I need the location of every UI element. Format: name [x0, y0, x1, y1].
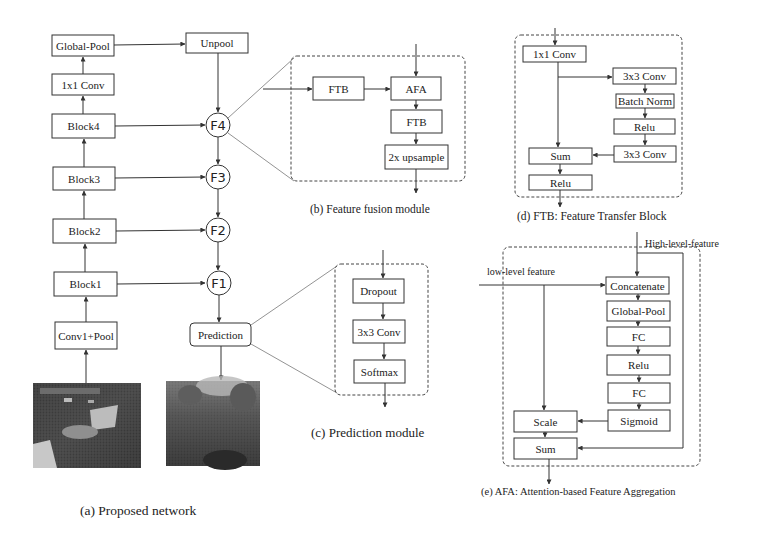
prediction-label: Prediction — [198, 329, 244, 341]
afa-sigmoid-box: Sigmoid — [608, 410, 670, 431]
ftb-conv3x3-a-box: 3x3 Conv — [613, 68, 676, 84]
afa-sum-box: Sum — [514, 438, 577, 459]
zoom-line-f4-top — [228, 58, 294, 118]
proposed-network: Global-Pool Unpool 1x1 Conv Block4 Block… — [33, 33, 260, 518]
global-pool-label: Global-Pool — [56, 40, 110, 52]
arrow-block2-to-f2 — [116, 230, 205, 231]
block1-label: Block1 — [70, 278, 102, 290]
f1-label: F1 — [211, 276, 227, 291]
fusion-upsample-label: 2x upsample — [389, 151, 445, 163]
attention-feature-aggregation: High-level-feature low-level feature Con… — [479, 232, 719, 498]
arrow-block1-to-f1 — [117, 283, 205, 284]
ftb-sum-box: Sum — [529, 148, 592, 164]
ftb-batch-norm-label: Batch Norm — [618, 95, 673, 107]
output-depth-map — [166, 376, 260, 470]
ftb-relu-a-box: Relu — [614, 119, 675, 134]
afa-relu-label: Relu — [628, 359, 649, 371]
afa-scale-label: Scale — [534, 416, 558, 428]
fusion-afa-box: AFA — [391, 77, 441, 100]
pred-conv3x3-box: 3x3 Conv — [353, 320, 405, 343]
zoom-line-f4-bottom — [228, 133, 294, 181]
conv1-pool-box: Conv1+Pool — [55, 322, 117, 349]
ftb-relu-b-label: Relu — [550, 177, 571, 189]
ftb-conv3x3-b-label: 3x3 Conv — [623, 148, 667, 160]
dropout-label: Dropout — [360, 285, 397, 297]
afa-relu-box: Relu — [607, 355, 670, 375]
fusion-node-f2: F2 — [206, 218, 230, 242]
afa-global-pool-label: Global-Pool — [612, 305, 666, 317]
input-image — [33, 383, 141, 468]
conv1x1-box: 1x1 Conv — [52, 74, 114, 95]
fusion-ftb-input-box: FTB — [313, 77, 364, 100]
afa-fc-b-label: FC — [632, 387, 645, 399]
ftb-conv1x1-box: 1x1 Conv — [523, 46, 586, 62]
prediction-module: Dropout 3x3 Conv Softmax (c) Prediction … — [311, 250, 428, 440]
caption-afa: (e) AFA: Attention-based Feature Aggrega… — [481, 486, 676, 498]
afa-sigmoid-label: Sigmoid — [620, 415, 658, 427]
caption-fusion-module: (b) Feature fusion module — [310, 203, 430, 216]
ftb-sum-label: Sum — [550, 150, 571, 162]
block2-box: Block2 — [53, 219, 116, 243]
block3-box: Block3 — [53, 167, 115, 190]
arrow-globalpool-to-unpool — [114, 44, 185, 45]
fusion-ftb-output-box: FTB — [391, 110, 442, 133]
ftb-relu-a-label: Relu — [634, 121, 655, 133]
ftb-relu-b-box: Relu — [529, 175, 592, 190]
pred-conv3x3-label: 3x3 Conv — [357, 326, 401, 338]
afa-fc-b-box: FC — [608, 383, 670, 403]
block4-label: Block4 — [68, 120, 100, 132]
afa-global-pool-box: Global-Pool — [607, 301, 670, 321]
fusion-ftb-output-label: FTB — [406, 116, 426, 128]
fusion-node-f4: F4 — [206, 113, 230, 137]
ftb-conv1x1-label: 1x1 Conv — [533, 48, 577, 60]
prediction-box: Prediction — [190, 323, 251, 346]
architecture-diagram: Global-Pool Unpool 1x1 Conv Block4 Block… — [0, 0, 763, 535]
caption-prediction-module: (c) Prediction module — [311, 425, 425, 440]
zoom-line-pred-bottom — [251, 344, 337, 393]
fusion-afa-label: AFA — [405, 83, 426, 95]
f2-label: F2 — [210, 223, 226, 238]
fusion-node-f3: F3 — [206, 165, 230, 189]
softmax-box: Softmax — [354, 360, 405, 383]
feature-transfer-block: 1x1 Conv 3x3 Conv Batch Norm Relu 3x3 Co… — [515, 28, 682, 223]
fusion-node-f1: F1 — [207, 271, 231, 295]
ftb-conv3x3-a-label: 3x3 Conv — [623, 70, 667, 82]
arrow-block3-to-f3 — [115, 177, 205, 178]
ftb-batch-norm-box: Batch Norm — [616, 94, 674, 108]
zoom-line-pred-top — [251, 266, 337, 325]
high-level-feature-label: High-level-feature — [645, 238, 719, 249]
fusion-ftb-input-label: FTB — [328, 83, 348, 95]
afa-concatenate-label: Concatenate — [610, 280, 664, 292]
feature-fusion-module: FTB AFA FTB 2x upsample (b) Feature fusi… — [263, 44, 465, 216]
dropout-box: Dropout — [353, 279, 404, 303]
fusion-upsample-box: 2x upsample — [385, 145, 448, 169]
conv1-pool-label: Conv1+Pool — [58, 330, 114, 342]
arrow-block4-to-f4 — [115, 125, 205, 126]
afa-fc-a-box: FC — [607, 327, 670, 346]
afa-sum-label: Sum — [535, 443, 556, 455]
global-pool-box: Global-Pool — [52, 35, 114, 56]
block1-box: Block1 — [54, 272, 117, 296]
f3-label: F3 — [210, 170, 226, 185]
ftb-conv3x3-b-box: 3x3 Conv — [614, 146, 676, 162]
f4-label: F4 — [210, 118, 226, 133]
low-level-feature-label: low-level feature — [487, 266, 556, 277]
softmax-label: Softmax — [361, 366, 399, 378]
unpool-box: Unpool — [186, 33, 248, 53]
caption-ftb: (d) FTB: Feature Transfer Block — [517, 210, 667, 223]
afa-fc-a-label: FC — [632, 331, 645, 343]
unpool-label: Unpool — [201, 37, 234, 49]
block2-label: Block2 — [69, 225, 101, 237]
block4-box: Block4 — [52, 114, 115, 138]
block3-label: Block3 — [68, 173, 100, 185]
afa-concatenate-box: Concatenate — [606, 277, 669, 294]
afa-scale-box: Scale — [514, 411, 577, 432]
conv1x1-label: 1x1 Conv — [61, 79, 105, 91]
caption-proposed-network: (a) Proposed network — [80, 503, 196, 518]
